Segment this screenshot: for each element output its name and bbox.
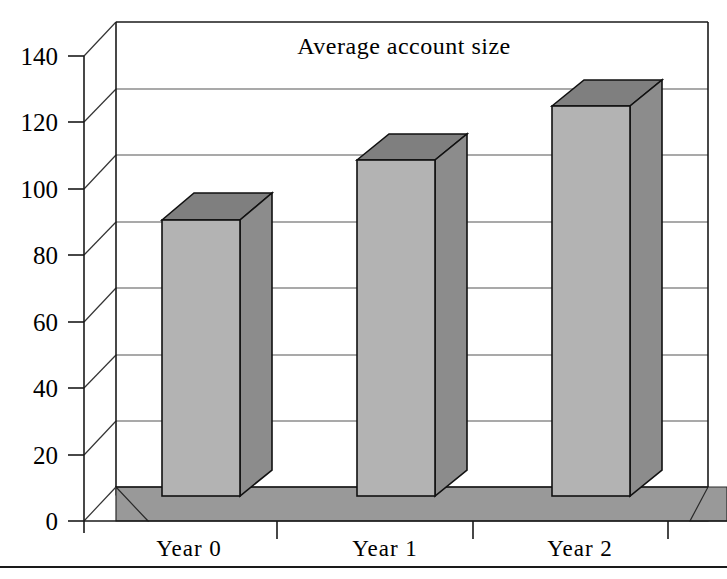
- x-tick-label-year-0: Year 0: [156, 536, 222, 561]
- depth-connectors-group: [84, 22, 116, 521]
- bar-side-face: [435, 134, 467, 496]
- bar-side-face: [240, 193, 272, 496]
- bar-year-1[interactable]: [357, 134, 467, 496]
- depth-line-60: [84, 288, 116, 322]
- y-tick-label-40: 40: [33, 375, 58, 402]
- chart-container: 140 120 100 80 60 40 20 0: [0, 0, 727, 579]
- bar-front-face: [162, 220, 240, 496]
- y-tickmarks-group: [68, 56, 84, 521]
- depth-line-120: [84, 89, 116, 122]
- y-tick-label-120: 120: [21, 109, 59, 136]
- depth-line-0: [84, 487, 116, 521]
- bar-side-face: [630, 80, 662, 496]
- x-tick-label-year-1: Year 1: [352, 536, 418, 561]
- x-axis-labels-group: Year 0 Year 1 Year 2: [156, 536, 613, 561]
- bar-front-face: [552, 106, 630, 496]
- y-tick-label-80: 80: [33, 242, 58, 269]
- x-tick-label-year-2: Year 2: [547, 536, 613, 561]
- bar-year-0[interactable]: [162, 193, 272, 496]
- bar-front-face: [357, 160, 435, 496]
- depth-line-80: [84, 222, 116, 255]
- bar-chart-3d: 140 120 100 80 60 40 20 0: [0, 0, 727, 579]
- bar-year-2[interactable]: [552, 80, 662, 496]
- depth-line-100: [84, 155, 116, 189]
- depth-line-40: [84, 355, 116, 388]
- y-axis-labels-group: 140 120 100 80 60 40 20 0: [21, 43, 59, 535]
- y-tick-label-60: 60: [33, 309, 58, 336]
- y-tick-label-140: 140: [21, 43, 59, 70]
- y-tick-label-20: 20: [33, 442, 58, 469]
- depth-line-20: [84, 421, 116, 455]
- depth-line-140: [84, 22, 116, 56]
- y-tick-label-0: 0: [46, 508, 59, 535]
- chart-title: Average account size: [297, 33, 510, 59]
- y-tick-label-100: 100: [21, 176, 59, 203]
